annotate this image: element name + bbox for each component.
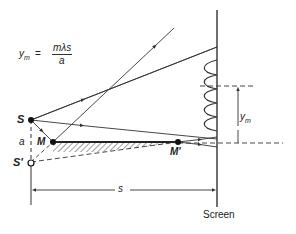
source-point-S (28, 117, 34, 123)
label-S-prime: S' (13, 156, 23, 168)
virtual-source-S-prime (28, 160, 34, 166)
label-screen: Screen (203, 209, 235, 220)
formula-equals: = (35, 48, 41, 59)
label-M-prime: M' (170, 146, 181, 157)
formula-denominator: a (59, 55, 65, 66)
formula-lhs: ym (19, 48, 30, 61)
label-a: a (19, 136, 25, 147)
label-ym: ym (240, 111, 251, 124)
label-M: M (37, 136, 45, 147)
fringe-pattern (204, 60, 217, 131)
mirror-point-M-prime (175, 139, 181, 145)
label-S: S (17, 113, 24, 125)
diagram-canvas (0, 0, 296, 234)
lloyds-mirror-diagram: ym = mλs a S a M S' M' s ym Screen (0, 0, 296, 234)
mirror-point-M (50, 139, 56, 145)
formula-numerator: mλs (53, 42, 71, 53)
label-s: s (118, 183, 123, 194)
reflected-ray-M-prime-1 (178, 137, 217, 142)
